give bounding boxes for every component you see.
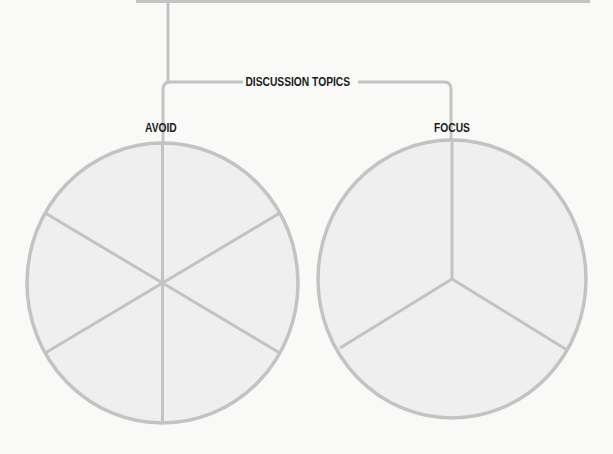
topics-diagram: [0, 0, 613, 454]
diagram-title: DISCUSSION TOPICS: [243, 75, 353, 89]
focus-wheel: [318, 140, 586, 418]
avoid-label: AVOID: [145, 121, 177, 135]
focus-label: FOCUS: [434, 121, 470, 135]
avoid-wheel: [27, 143, 298, 423]
